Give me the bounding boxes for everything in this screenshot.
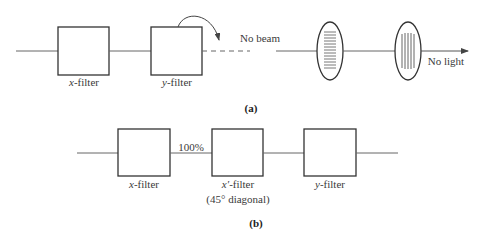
- y-filter-box-a: [151, 27, 202, 75]
- no-beam-label: No beam: [240, 33, 280, 44]
- panel-b: [77, 129, 398, 176]
- x-filter-box-a: [58, 27, 109, 75]
- x-prime-filter-box: [212, 129, 263, 176]
- no-light-label: No light: [428, 56, 464, 67]
- diagonal-note: (45° diagonal): [206, 194, 269, 205]
- panel-a: [16, 16, 468, 80]
- y-filter-label-b: y-filter: [315, 179, 345, 190]
- x-prime-filter-label: x′-filter: [222, 179, 254, 190]
- polarizer-horizontal-icon: [317, 22, 343, 80]
- x-filter-label-b: x-filter: [129, 179, 159, 190]
- caption-a: (a): [245, 103, 258, 114]
- x-filter-label-a: x-filter: [69, 77, 99, 88]
- y-filter-label-a: y-filter: [162, 77, 192, 88]
- caption-b: (b): [249, 218, 262, 229]
- y-filter-box-b: [304, 129, 356, 176]
- x-filter-box-b: [118, 129, 170, 176]
- intensity-label: 100%: [178, 142, 204, 153]
